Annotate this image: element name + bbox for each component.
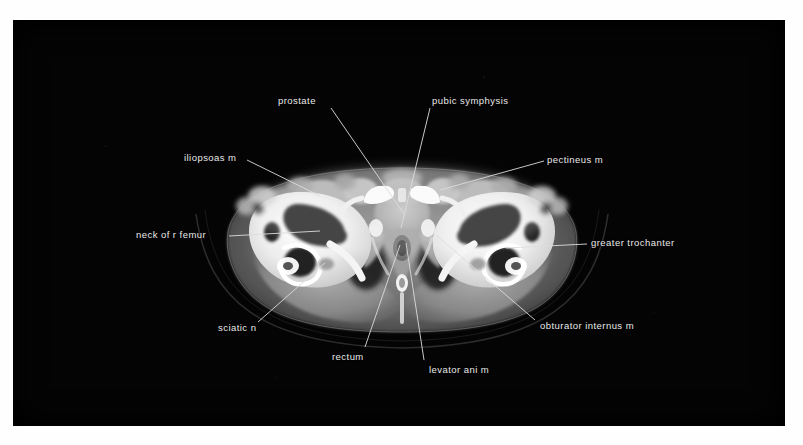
ct-image-svg	[0, 0, 803, 445]
annotation-label-obturator-internus-m: obturator internus m	[540, 320, 634, 331]
annotation-label-iliopsoas-m: iliopsoas m	[184, 152, 236, 163]
annotation-label-neck-of-r-femur: neck of r femur	[136, 229, 206, 240]
ct-figure: prostatepubic symphysisiliopsoas mpectin…	[0, 0, 803, 445]
annotation-label-greater-trochanter: greater trochanter	[591, 237, 675, 248]
annotation-label-rectum: rectum	[332, 351, 364, 362]
annotation-label-pectineus-m: pectineus m	[547, 154, 603, 165]
annotation-label-levator-ani-m: levator ani m	[429, 364, 489, 375]
partial-volume-glow	[252, 164, 552, 256]
annotation-label-sciatic-n: sciatic n	[218, 322, 256, 333]
annotation-label-prostate: prostate	[278, 95, 316, 106]
annotation-label-pubic-symphysis: pubic symphysis	[432, 95, 508, 106]
